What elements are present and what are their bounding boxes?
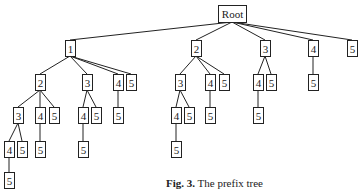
tree-node: 2 (36, 75, 46, 91)
tree-node: 4 (254, 75, 264, 91)
node-label: 5 (38, 144, 44, 156)
tree-node: 5 (127, 75, 137, 91)
node-label: 5 (116, 110, 122, 122)
node-label: 1 (68, 43, 74, 55)
node-label: 4 (116, 77, 122, 89)
node-label: 3 (16, 110, 22, 122)
tree-edge (196, 56, 210, 74)
tree-node: 5 (309, 75, 319, 91)
tree-edge (9, 123, 18, 141)
tree-node: 5 (79, 142, 89, 158)
node-label: 5 (208, 110, 214, 122)
node-label: 4 (208, 77, 214, 89)
node-label: 4 (311, 43, 317, 55)
tree-node: 5 (185, 108, 195, 124)
tree-edge (180, 90, 189, 107)
tree-node: 5 (267, 75, 277, 91)
node-label: 5 (81, 144, 87, 156)
tree-edge (180, 56, 196, 74)
node-label: 4 (38, 110, 44, 122)
tree-node: 3 (261, 41, 271, 57)
node-label: 2 (38, 77, 44, 89)
caption-label: Fig. 3. (166, 177, 195, 189)
tree-edge (18, 90, 40, 107)
tree-node: 3 (176, 75, 186, 91)
tree-node: 5 (172, 142, 182, 158)
tree-node: 5 (5, 173, 15, 189)
tree-edge (18, 123, 22, 141)
tree-node: 5 (114, 108, 124, 124)
tree-node: 2 (192, 41, 202, 57)
tree-node: 5 (254, 108, 264, 124)
tree-node: 4 (309, 41, 319, 57)
tree-edge (87, 90, 96, 107)
tree-node: 4 (172, 108, 182, 124)
node-label: 3 (178, 77, 184, 89)
tree-node: 5 (50, 108, 60, 124)
tree-edge (196, 22, 232, 40)
tree-node: 5 (18, 142, 28, 158)
node-label: 5 (350, 43, 356, 55)
tree-edge (70, 22, 232, 40)
tree-edge (232, 22, 352, 40)
node-label: 3 (85, 77, 91, 89)
node-label: 4 (7, 144, 13, 156)
node-label: Root (222, 8, 243, 20)
node-label: 5 (52, 110, 58, 122)
figure-caption: Fig. 3. The prefix tree (166, 177, 263, 189)
tree-node-root: Root (219, 6, 247, 23)
tree-node: 5 (348, 41, 358, 57)
tree-edge (40, 56, 70, 74)
node-label: 4 (256, 77, 262, 89)
tree-node: 5 (36, 142, 46, 158)
tree-node: 3 (83, 75, 93, 91)
node-label: 2 (194, 43, 200, 55)
node-label: 5 (269, 77, 275, 89)
tree-node: 5 (220, 75, 230, 91)
tree-node: 4 (206, 75, 216, 91)
node-label: 5 (256, 110, 262, 122)
tree-edge (83, 90, 87, 107)
tree-edge (258, 56, 265, 74)
node-label: 5 (222, 77, 228, 89)
node-label: 3 (263, 43, 269, 55)
node-label: 5 (187, 110, 193, 122)
node-label: 5 (129, 77, 135, 89)
tree-node: 4 (114, 75, 124, 91)
node-label: 4 (81, 110, 87, 122)
tree-node: 5 (92, 108, 102, 124)
tree-node: 1 (66, 41, 76, 57)
tree-edge (196, 56, 224, 74)
node-label: 5 (7, 175, 13, 187)
node-label: 4 (174, 110, 180, 122)
node-label: 5 (174, 144, 180, 156)
tree-edge (232, 22, 313, 40)
tree-node: 4 (36, 108, 46, 124)
tree-edge (176, 90, 180, 107)
node-label: 5 (94, 110, 100, 122)
tree-edge (265, 56, 271, 74)
node-label: 5 (20, 144, 26, 156)
tree-edge (70, 56, 118, 74)
tree-node: 5 (206, 108, 216, 124)
tree-node: 4 (5, 142, 15, 158)
tree-node: 3 (14, 108, 24, 124)
tree-node: 4 (79, 108, 89, 124)
caption-text: The prefix tree (198, 177, 263, 189)
tree-edge (40, 90, 54, 107)
node-label: 5 (311, 77, 317, 89)
prefix-tree-diagram: Root1234523453454553454554555455555 (0, 0, 362, 191)
